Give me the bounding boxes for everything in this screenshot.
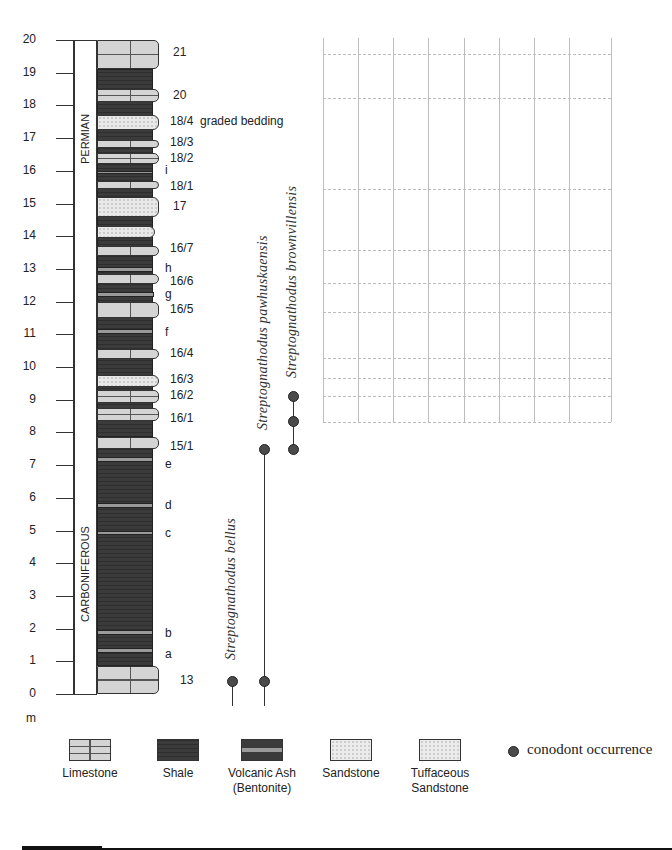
scale-tick bbox=[56, 531, 74, 532]
bed-label: b bbox=[165, 626, 172, 640]
bed-label: 21 bbox=[173, 45, 186, 59]
bed-label: c bbox=[165, 526, 171, 540]
bed-ash bbox=[97, 503, 153, 508]
scale-tick-label: 20 bbox=[14, 32, 36, 46]
scale-tick-label: 2 bbox=[14, 621, 36, 635]
bed-lime bbox=[97, 302, 159, 318]
conodont-occurrence-dot bbox=[288, 391, 299, 402]
bed-lime bbox=[97, 390, 159, 403]
scale-tick-label: 15 bbox=[14, 196, 36, 210]
page-rule-accent bbox=[22, 846, 102, 850]
scale-tick bbox=[56, 498, 74, 499]
bed-label: a bbox=[165, 647, 172, 661]
bed-ash bbox=[97, 531, 153, 536]
legend-label-ash: Volcanic Ash (Bentonite) bbox=[212, 766, 312, 796]
bed-label: 15/1 bbox=[170, 439, 193, 453]
grid-dashed-line bbox=[323, 283, 611, 284]
bed-lime bbox=[97, 153, 159, 164]
species-label: Streptognathodus brownvillensis bbox=[284, 186, 300, 378]
scale-tick bbox=[56, 367, 74, 368]
conodont-occurrence-dot bbox=[259, 676, 270, 687]
scale-tick-label: 1 bbox=[14, 653, 36, 667]
scale-tick-label: 4 bbox=[14, 555, 36, 569]
bed-lime bbox=[97, 181, 159, 189]
bed-label: 16/4 bbox=[170, 346, 193, 360]
grid-dashed-line bbox=[323, 189, 611, 190]
scale-tick bbox=[56, 302, 74, 303]
scale-tick bbox=[56, 400, 74, 401]
scale-tick-label: 6 bbox=[14, 490, 36, 504]
grid-dashed-line bbox=[323, 422, 611, 423]
scale-tick bbox=[56, 138, 74, 139]
scale-tick bbox=[56, 73, 74, 74]
legend-swatch-ash bbox=[241, 739, 283, 761]
scale-tick bbox=[56, 694, 74, 695]
grid-vertical-line bbox=[428, 38, 429, 422]
scale-tick-label: 3 bbox=[14, 588, 36, 602]
period-label-carboniferous: CARBONIFEROUS bbox=[79, 526, 91, 622]
bed-label: 13 bbox=[180, 673, 193, 687]
grid-vertical-line bbox=[569, 38, 570, 422]
scale-tick-label: 9 bbox=[14, 392, 36, 406]
bed-label: 18/2 bbox=[170, 151, 193, 165]
scale-tick-label: 12 bbox=[14, 294, 36, 308]
grid-dashed-line bbox=[323, 312, 611, 313]
scale-tick bbox=[56, 269, 74, 270]
lithology-column bbox=[97, 40, 167, 695]
bed-label: e bbox=[165, 457, 172, 471]
period-label-permian: PERMIAN bbox=[79, 114, 91, 164]
scale-tick bbox=[56, 596, 74, 597]
bed-sand bbox=[97, 375, 159, 386]
bed-sand bbox=[97, 115, 159, 130]
legend-conodont-dot bbox=[508, 746, 519, 757]
scale-tick-label: 16 bbox=[14, 163, 36, 177]
scale-unit-label: m bbox=[14, 711, 36, 725]
bed-label: g bbox=[165, 287, 172, 301]
grid-vertical-line bbox=[611, 38, 612, 422]
annotation-graded-bedding: graded bedding bbox=[200, 114, 283, 128]
species-label: Streptognathodus bellus bbox=[223, 518, 239, 660]
bed-label: 16/5 bbox=[170, 302, 193, 316]
scale-tick bbox=[56, 563, 74, 564]
bed-ash bbox=[97, 457, 153, 462]
bed-ash bbox=[97, 267, 153, 272]
conodont-occurrence-dot bbox=[288, 416, 299, 427]
bed-lime bbox=[97, 408, 159, 421]
conodont-occurrence-dot bbox=[227, 676, 238, 687]
scale-tick-label: 8 bbox=[14, 424, 36, 438]
legend-swatch-sand bbox=[330, 739, 372, 761]
scale-tick bbox=[56, 171, 74, 172]
scale-tick bbox=[56, 334, 74, 335]
scale-tick-label: 14 bbox=[14, 228, 36, 242]
scale-tick-label: 13 bbox=[14, 261, 36, 275]
bed-sand bbox=[97, 197, 159, 217]
bed-label: 16/1 bbox=[170, 411, 193, 425]
bed-lime bbox=[97, 140, 159, 148]
scale-tick bbox=[56, 629, 74, 630]
bed-label: d bbox=[165, 498, 172, 512]
scale-tick-label: 5 bbox=[14, 523, 36, 537]
grid-dashed-line bbox=[323, 98, 611, 99]
bed-label: 17 bbox=[173, 199, 186, 213]
bed-label: 16/6 bbox=[170, 274, 193, 288]
scale-tick-label: 0 bbox=[14, 686, 36, 700]
grid-dashed-line bbox=[323, 54, 611, 55]
scale-tick-label: 11 bbox=[14, 326, 36, 340]
bed-label: 18/1 bbox=[170, 179, 193, 193]
bed-ash bbox=[97, 171, 153, 174]
scale-tick bbox=[56, 432, 74, 433]
scale-tick bbox=[56, 661, 74, 662]
grid-dashed-line bbox=[323, 396, 611, 397]
bed-lime bbox=[97, 437, 159, 448]
scale-tick-label: 7 bbox=[14, 457, 36, 471]
legend-label-lime: Limestone bbox=[40, 766, 140, 781]
bed-label: f bbox=[165, 325, 168, 339]
bed-ash bbox=[97, 630, 153, 635]
bed-label: i bbox=[165, 163, 168, 177]
scale-tick-label: 10 bbox=[14, 359, 36, 373]
scale-tick bbox=[56, 204, 74, 205]
species-label: Streptognathodus pawhuskaensis bbox=[255, 235, 271, 430]
bed-lime bbox=[97, 40, 159, 69]
grid-vertical-line bbox=[499, 38, 500, 422]
bed-lime bbox=[97, 89, 159, 102]
